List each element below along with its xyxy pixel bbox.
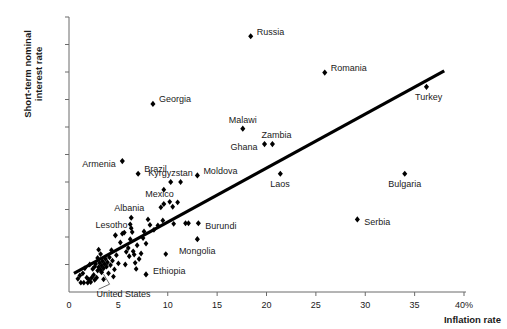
point-label-mongolia: Mongolia — [179, 247, 216, 256]
data-point — [135, 242, 140, 248]
point-label-united-states: United States — [97, 290, 151, 299]
data-point — [170, 204, 175, 210]
point-label-ghana: Ghana — [231, 143, 258, 152]
data-point-ghana — [262, 141, 267, 147]
point-label-albania: Albania — [114, 204, 144, 213]
data-point-armenia — [120, 158, 125, 164]
plot-canvas — [0, 0, 507, 329]
data-point-serbia — [355, 216, 360, 222]
point-label-bulgaria: Bulgaria — [388, 180, 421, 189]
leader-line-united-states — [99, 274, 110, 289]
point-label-romania: Romania — [331, 64, 367, 73]
data-point — [123, 262, 128, 268]
data-point — [167, 199, 172, 205]
data-point-turkey — [424, 84, 429, 90]
data-point-mongolia — [195, 236, 200, 242]
data-point-georgia — [150, 101, 155, 107]
point-label-zambia: Zambia — [261, 131, 291, 140]
point-label-malawi: Malawi — [229, 116, 257, 125]
point-label-ethiopia: Ethiopia — [153, 267, 186, 276]
data-point-albania — [129, 215, 134, 221]
data-point-brazil — [136, 171, 141, 177]
point-label-moldova: Moldova — [203, 167, 237, 176]
data-point-zambia — [270, 141, 275, 147]
data-point — [144, 241, 149, 247]
point-label-turkey: Turkey — [415, 93, 442, 102]
data-point — [106, 270, 111, 276]
data-point-burundi — [196, 220, 201, 226]
data-point — [127, 253, 132, 259]
data-point — [175, 199, 180, 205]
data-point-romania — [322, 69, 327, 75]
data-point-russia — [248, 33, 253, 39]
data-point-ethiopia — [143, 271, 148, 277]
point-label-lesotho: Lesotho — [95, 221, 127, 230]
data-point-laos — [278, 171, 283, 177]
point-label-georgia: Georgia — [159, 95, 191, 104]
data-point — [118, 240, 123, 246]
data-point — [133, 260, 138, 266]
point-label-russia: Russia — [257, 28, 285, 37]
data-point — [139, 251, 144, 257]
data-point — [134, 266, 139, 272]
data-point — [137, 256, 142, 262]
point-label-serbia: Serbia — [364, 218, 390, 227]
data-point — [112, 267, 117, 273]
data-point-bulgaria — [402, 171, 407, 177]
data-point — [186, 220, 191, 226]
data-point — [171, 221, 176, 227]
data-point — [178, 179, 183, 185]
data-point — [116, 261, 121, 267]
point-label-armenia: Armenia — [82, 160, 116, 169]
data-point-moldova — [195, 172, 200, 178]
data-point-kyrgyzstan — [168, 179, 173, 185]
data-point-lesotho — [113, 232, 118, 238]
point-label-burundi: Burundi — [205, 222, 236, 231]
point-label-laos: Laos — [270, 180, 290, 189]
data-point — [163, 251, 168, 257]
data-point — [148, 222, 153, 228]
data-point-malawi — [240, 126, 245, 132]
data-point — [114, 252, 119, 258]
scatter-chart: Short-term nominal interest rate Inflati… — [0, 0, 507, 329]
data-point — [111, 274, 116, 280]
point-label-brazil: Brazil — [144, 165, 167, 174]
point-label-mexico: Mexico — [145, 190, 174, 199]
data-point — [146, 217, 151, 223]
trend-line — [74, 71, 444, 273]
